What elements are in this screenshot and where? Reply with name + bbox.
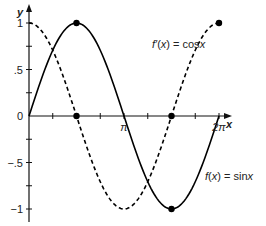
- axes: [26, 4, 232, 222]
- x-tick-label: 2π: [211, 121, 226, 133]
- y-axis-arrow: [26, 4, 32, 12]
- cos-series-label: f′(x) = cosx: [152, 38, 206, 50]
- cos-point: [73, 113, 79, 119]
- y-tick-label: 0: [17, 110, 23, 122]
- cos-point: [216, 20, 222, 26]
- sin-series-label: f(x) = sinx: [205, 170, 254, 182]
- y-tick-label: −.5: [7, 157, 23, 169]
- chart: y x π2π1.50−.5−1f(x) = sinxf′(x) = cosx: [0, 0, 266, 226]
- y-tick-label: .5: [14, 64, 23, 76]
- cos-point: [168, 113, 174, 119]
- labels: y x π2π1.50−.5−1f(x) = sinxf′(x) = cosx: [7, 6, 253, 215]
- x-axis-label: x: [225, 118, 233, 130]
- y-tick-label: −1: [10, 203, 23, 215]
- x-tick-label: π: [120, 121, 128, 133]
- y-tick-label: 1: [17, 17, 23, 29]
- sin-point: [168, 206, 174, 212]
- sin-point: [73, 20, 79, 26]
